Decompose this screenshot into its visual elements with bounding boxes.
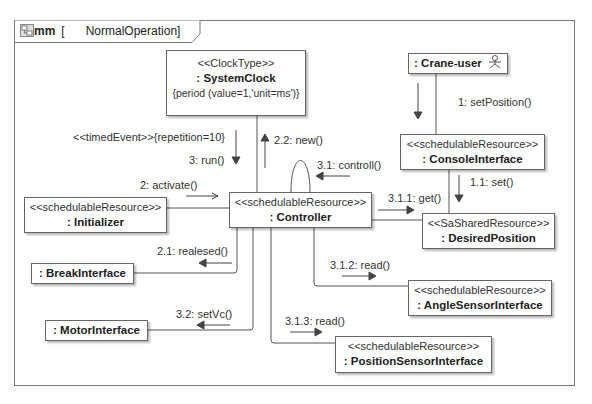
angle-sensor-interface-node[interactable]: <<schedulableResource>> : AngleSensorInt… <box>408 280 552 316</box>
stereotype-label: <<schedulableResource>> <box>336 339 491 354</box>
console-interface-node[interactable]: <<schedulableResource>> : ConsoleInterfa… <box>400 134 545 170</box>
message-read-position: 3.1.3: read() <box>285 315 345 327</box>
crane-user-node[interactable]: : Crane-user <box>408 53 508 74</box>
motor-interface-node[interactable]: : MotorInterface <box>45 320 148 341</box>
message-realesed: 2.1: realesed() <box>157 245 228 257</box>
message-new: 2.2: new() <box>274 134 323 146</box>
node-name: : MotorInterface <box>46 321 147 339</box>
message-activate: 2: activate() <box>140 179 197 191</box>
stereotype-label: <<schedulableResource>> <box>230 195 371 210</box>
controller-node[interactable]: <<schedulableResource>> : Controller <box>229 192 372 228</box>
message-run: 3: run() <box>189 154 224 166</box>
node-name: : DesiredPosition <box>423 231 554 246</box>
stereotype-label: <<SaSharedResource>> <box>423 216 554 231</box>
stereotype-label: <<schedulableResource>> <box>401 137 544 152</box>
message-read-angle: 3.1.2: read() <box>330 259 390 271</box>
system-clock-node[interactable]: <<ClockType>> : SystemClock {period (val… <box>166 50 306 116</box>
node-name: : Crane-user <box>414 57 482 69</box>
node-name: : AngleSensorInterface <box>409 298 551 313</box>
node-name: : SystemClock <box>167 71 305 86</box>
stereotype-label: <<schedulableResource>> <box>409 283 551 298</box>
node-name: : Initializer <box>25 215 166 230</box>
message-set-vc: 3.2: setVc() <box>176 308 232 320</box>
message-controll: 3.1: controll() <box>317 159 381 171</box>
node-name: : PositionSensorInterface <box>336 354 491 369</box>
message-get: 3.1.1: get() <box>388 192 441 204</box>
message-timed-event: <<timedEvent>>{repetition=10} <box>73 131 225 143</box>
node-name: : ConsoleInterface <box>401 152 544 167</box>
message-set-position: 1: setPosition() <box>458 96 531 108</box>
desired-position-node[interactable]: <<SaSharedResource>> : DesiredPosition <box>422 213 555 249</box>
message-set: 1.1: set() <box>470 176 513 188</box>
initializer-node[interactable]: <<schedulableResource>> : Initializer <box>24 197 167 233</box>
break-interface-node[interactable]: : BreakInterface <box>31 263 134 284</box>
position-sensor-interface-node[interactable]: <<schedulableResource>> : PositionSensor… <box>335 336 492 373</box>
node-name: : Controller <box>230 210 371 225</box>
constraint-label: {period (value=1,'unit=ms')} <box>167 86 305 101</box>
stereotype-label: <<schedulableResource>> <box>25 200 166 215</box>
node-name: : BreakInterface <box>32 264 133 282</box>
actor-icon <box>488 55 502 73</box>
stereotype-label: <<ClockType>> <box>167 56 305 71</box>
